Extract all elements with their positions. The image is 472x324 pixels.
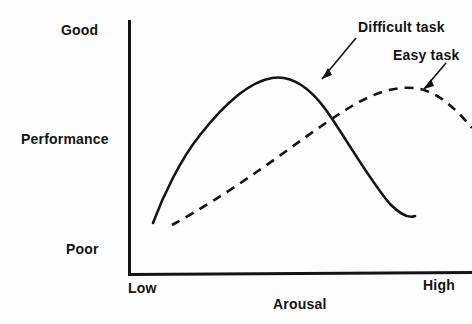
annotation-difficult-task: Difficult task <box>358 19 445 35</box>
x-axis-left-label: Low <box>128 280 157 296</box>
x-axis-line <box>128 273 472 275</box>
x-axis-title: Arousal <box>273 296 327 312</box>
annotation-easy-task: Easy task <box>393 47 459 63</box>
yerkes-dodson-chart: Good Performance Poor Low High Arousal D… <box>0 0 472 324</box>
y-axis-title: Performance <box>21 131 109 147</box>
y-axis-bottom-label: Poor <box>66 241 99 257</box>
callout-arrow-difficult-task <box>322 38 356 79</box>
series-line-easy-task <box>172 88 472 225</box>
series-line-difficult-task <box>153 78 415 223</box>
x-axis-right-label: High <box>423 277 455 293</box>
y-axis-top-label: Good <box>61 22 98 38</box>
callout-arrow-easy-task <box>424 63 446 89</box>
